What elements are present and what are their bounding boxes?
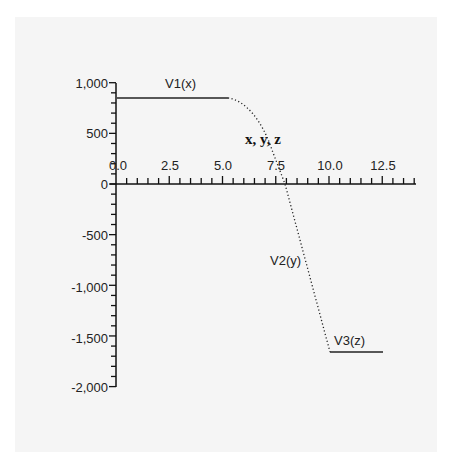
series-label-v1: V1(x) [165,76,196,91]
x-tick-label: 5.0 [214,158,232,173]
x-tick-label: 7.5 [267,158,285,173]
y-tick-label: 0 [101,177,108,192]
x-axis-ticks [127,176,415,184]
y-tick-label: -1,000 [71,280,108,295]
series-label-v3: V3(z) [334,333,365,348]
x-tick-label: 0.0 [109,158,127,173]
y-tick-label: -500 [82,228,108,243]
annotation-xyz: x, y, z [245,131,281,147]
x-tick-label: 12.5 [370,158,395,173]
y-axis-ticks [109,83,116,387]
x-tick-label: 10.0 [317,158,342,173]
x-tick-label: 2.5 [161,158,179,173]
series-label-v2: V2(y) [270,253,301,268]
y-tick-label: -2,000 [71,380,108,395]
y-tick-label: 500 [86,126,108,141]
y-tick-label: 1,000 [75,76,108,91]
chart: 1,000 500 0 -500 -1,000 -1,500 -2,000 0.… [0,0,452,466]
y-tick-label: -1,500 [71,331,108,346]
